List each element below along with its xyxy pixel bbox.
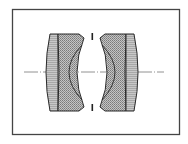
left-outer-element — [46, 34, 58, 111]
stop-mark-bottom — [92, 104, 94, 111]
stop-mark-top — [92, 33, 94, 40]
right-outer-element — [126, 34, 138, 111]
lens-diagram — [0, 0, 188, 144]
